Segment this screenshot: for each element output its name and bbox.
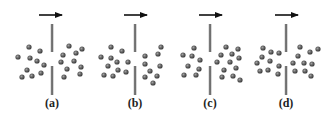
particle: [123, 69, 128, 74]
barrier-bottom: [209, 66, 212, 95]
particle: [268, 49, 273, 54]
particle: [237, 77, 242, 82]
particle: [297, 44, 302, 49]
barrier-top: [209, 24, 212, 52]
particle: [219, 74, 224, 79]
particle: [157, 63, 162, 68]
particle: [227, 59, 232, 64]
particle: [260, 45, 265, 50]
particle: [259, 54, 264, 59]
particle: [98, 54, 103, 59]
particle: [108, 55, 113, 60]
particle: [214, 59, 219, 64]
panel-graphic-b: [98, 15, 163, 95]
particle: [119, 48, 124, 53]
particle: [193, 72, 198, 77]
particle: [290, 60, 295, 65]
particle: [64, 66, 69, 71]
diffusion-diagram: (a) (b) (c) (d): [0, 0, 328, 119]
particle: [276, 63, 281, 68]
particle: [34, 58, 39, 63]
particle: [180, 52, 185, 57]
particle: [218, 52, 223, 57]
particle: [78, 64, 83, 69]
particle: [77, 71, 82, 76]
particle: [267, 58, 272, 63]
panel-label-c: (c): [190, 96, 230, 111]
particle: [115, 67, 120, 72]
barrier-bottom: [51, 66, 54, 95]
particle: [125, 59, 130, 64]
particle: [235, 46, 240, 51]
particle: [41, 62, 46, 67]
barrier-top: [51, 24, 54, 52]
particle: [15, 54, 20, 59]
particle: [276, 50, 281, 55]
panel-graphic-d: [254, 15, 320, 95]
barrier-bottom: [285, 66, 288, 95]
particle: [27, 55, 32, 60]
particle: [61, 74, 66, 79]
particle: [265, 67, 270, 72]
particle: [230, 73, 235, 78]
particle: [147, 68, 152, 73]
particle: [24, 67, 29, 72]
panel-label-d: (d): [266, 96, 306, 111]
particle: [223, 44, 228, 49]
particle: [19, 74, 24, 79]
particle: [309, 61, 314, 66]
particle: [26, 44, 31, 49]
particle: [233, 65, 238, 70]
panel-graphic-a: [15, 15, 84, 95]
particle: [229, 51, 234, 56]
particle: [221, 67, 226, 72]
particle: [60, 52, 65, 57]
particle: [37, 48, 42, 53]
particle: [197, 57, 202, 62]
barrier-top: [134, 24, 137, 52]
particle: [79, 46, 84, 51]
barrier-top: [285, 24, 288, 52]
particle: [196, 66, 201, 71]
particle: [73, 50, 78, 55]
particle: [150, 80, 155, 85]
particle: [292, 68, 297, 73]
particle: [58, 59, 63, 64]
panel-label-a: (a): [32, 96, 72, 111]
particle: [185, 63, 190, 68]
particle: [142, 74, 147, 79]
particle: [307, 49, 312, 54]
particle: [155, 51, 160, 56]
particle: [302, 68, 307, 73]
particle: [108, 44, 113, 49]
particle: [66, 43, 71, 48]
panel-label-b: (b): [115, 96, 155, 111]
particle: [181, 72, 186, 77]
particle: [142, 61, 147, 66]
particle: [105, 63, 110, 68]
particle: [101, 72, 106, 77]
particle: [154, 73, 159, 78]
particle: [191, 45, 196, 50]
particle: [254, 60, 259, 65]
particle: [29, 73, 34, 78]
particle: [236, 55, 241, 60]
panel-graphic-c: [180, 15, 242, 95]
particle: [71, 58, 76, 63]
barrier-bottom: [134, 66, 137, 95]
particle: [158, 44, 163, 49]
particle: [38, 70, 43, 75]
particle: [295, 53, 300, 58]
particle: [110, 73, 115, 78]
particle: [301, 60, 306, 65]
particle: [308, 73, 313, 78]
particle: [257, 68, 262, 73]
particle: [189, 53, 194, 58]
particle: [315, 46, 320, 51]
particle: [114, 59, 119, 64]
particle: [142, 53, 147, 58]
particle: [275, 71, 280, 76]
